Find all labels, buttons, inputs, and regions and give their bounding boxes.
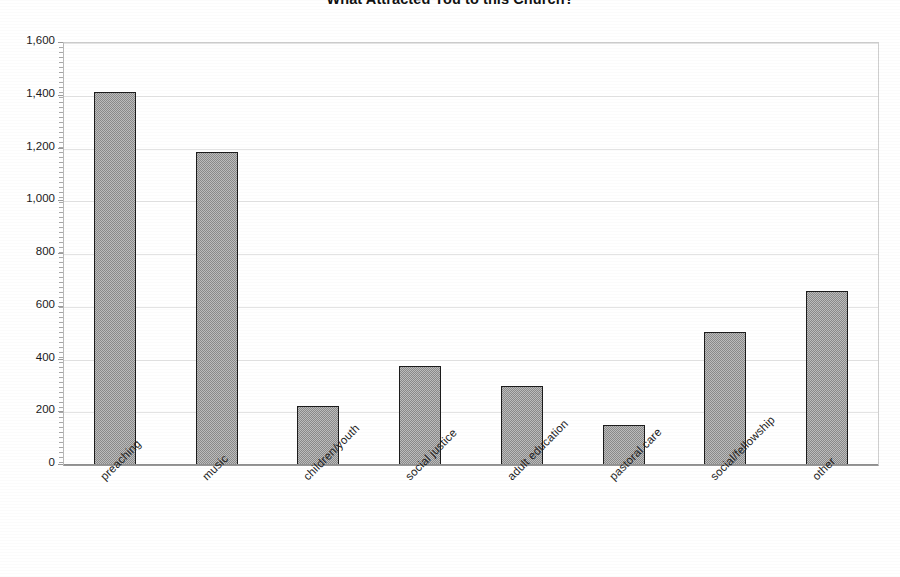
- gridline: [64, 412, 878, 413]
- x-axis-line: [64, 464, 878, 465]
- y-axis-tick: [58, 359, 63, 360]
- gridline: [64, 149, 878, 150]
- y-axis-tick-label: 200: [0, 403, 55, 415]
- y-axis-tick-label: 800: [0, 245, 55, 257]
- y-axis-tick: [58, 95, 63, 96]
- y-axis-tick-label: 1,200: [0, 140, 55, 152]
- gridline: [64, 201, 878, 202]
- y-axis-tick-label: 0: [0, 456, 55, 468]
- gridline: [64, 96, 878, 97]
- y-axis-tick: [58, 464, 63, 465]
- y-axis-tick: [58, 200, 63, 201]
- y-axis: 02004006008001,0001,2001,4001,600: [0, 0, 57, 577]
- chart-title: What Attracted You to this Church?: [0, 0, 900, 7]
- y-axis-tick: [58, 306, 63, 307]
- y-axis-tick-label: 400: [0, 351, 55, 363]
- y-axis-tick: [58, 148, 63, 149]
- y-axis-tick: [58, 253, 63, 254]
- y-axis-tick-label: 1,600: [0, 34, 55, 46]
- y-axis-tick-label: 1,000: [0, 192, 55, 204]
- y-axis-tick-label: 600: [0, 298, 55, 310]
- bar: [196, 152, 238, 465]
- y-axis-tick: [58, 411, 63, 412]
- gridline: [64, 307, 878, 308]
- bar-chart: What Attracted You to this Church? 02004…: [0, 0, 900, 577]
- plot-area: [63, 42, 879, 466]
- bar: [94, 92, 136, 465]
- y-axis-tick: [58, 42, 63, 43]
- gridline: [64, 254, 878, 255]
- bar: [806, 291, 848, 465]
- gridline: [64, 43, 878, 44]
- y-axis-tick-label: 1,400: [0, 87, 55, 99]
- gridline: [64, 360, 878, 361]
